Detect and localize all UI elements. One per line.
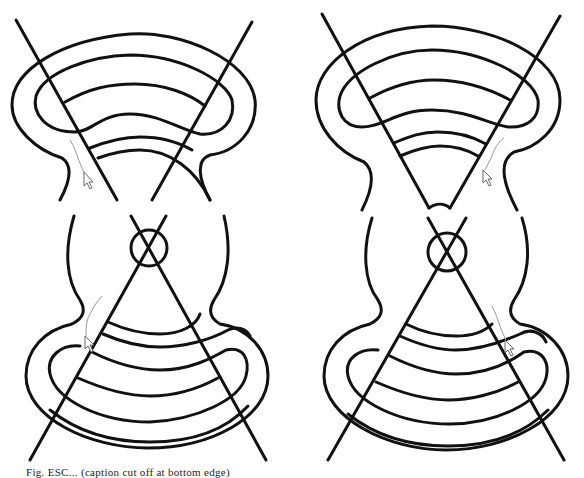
panel-top-left: [0, 0, 292, 210]
inner-ring: [339, 50, 538, 127]
arc-3: [400, 146, 478, 156]
inner-ring: [49, 346, 247, 422]
arc-2: [394, 132, 486, 144]
outer-ring: [316, 26, 560, 210]
panel-top-right: [292, 0, 584, 210]
inner-ring: [35, 55, 232, 134]
cursor-arrow-icon: [85, 336, 94, 352]
arc-3: [98, 150, 210, 200]
arc-1: [406, 324, 492, 336]
arc-3: [78, 378, 218, 396]
cursor-arrow-icon: [84, 172, 93, 189]
arc-3: [376, 382, 518, 400]
figure-caption: Fig. ESC... (caption cut off at bottom e…: [26, 466, 230, 478]
outer-ring: [12, 34, 255, 200]
cursor-trail: [70, 140, 84, 172]
outer-lower-arc: [50, 406, 248, 442]
cursor-arrow-icon: [483, 170, 492, 186]
wedge-bottom-cap: [429, 204, 450, 208]
panel-bottom-left: [0, 210, 292, 460]
inner-ring: [347, 350, 547, 424]
cursor-arrow-icon: [505, 340, 514, 356]
outer-lower-arc: [348, 410, 548, 446]
cursor-trail: [86, 296, 102, 336]
panel-bottom-right: [292, 210, 584, 460]
arc-1: [370, 80, 510, 100]
arc-2: [90, 137, 192, 150]
arc-1: [65, 84, 205, 106]
